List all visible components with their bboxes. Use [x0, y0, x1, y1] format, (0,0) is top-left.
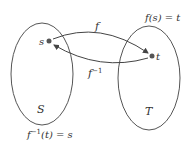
inverse-equation: f−1(t) = s — [26, 128, 73, 140]
element-t-dot — [150, 54, 155, 59]
element-s-label: s — [39, 36, 44, 47]
set-S-label: S — [37, 103, 45, 116]
arrow-f — [53, 32, 148, 53]
arrow-f-inverse-label: f−1 — [87, 67, 102, 80]
function-inverse-diagram: s t f f−1 S T f(s) = t f−1(t) = s — [0, 0, 187, 152]
set-T-label: T — [145, 105, 154, 118]
arrow-f-label: f — [94, 20, 101, 33]
element-s-dot — [47, 39, 52, 44]
forward-equation: f(s) = t — [144, 12, 181, 23]
element-t-label: t — [156, 51, 161, 62]
